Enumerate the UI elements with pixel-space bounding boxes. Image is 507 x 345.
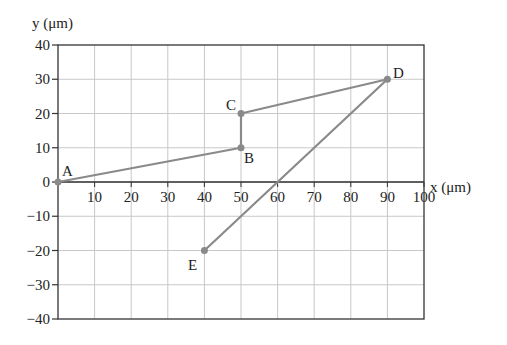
x-tick-label: 60 bbox=[270, 189, 285, 205]
x-tick-label: 50 bbox=[234, 189, 249, 205]
path-line bbox=[58, 79, 387, 250]
y-tick-label: 0 bbox=[43, 174, 51, 190]
point-label-e: E bbox=[188, 257, 197, 273]
data-path bbox=[58, 79, 387, 250]
y-tick-label: 30 bbox=[35, 71, 50, 87]
point-d-marker bbox=[384, 76, 391, 83]
point-a-marker bbox=[55, 179, 62, 186]
data-points bbox=[55, 76, 391, 254]
y-tick-label: 40 bbox=[35, 37, 50, 53]
y-tick-label: −40 bbox=[27, 311, 50, 327]
x-tick-label: 80 bbox=[343, 189, 358, 205]
axes bbox=[52, 45, 424, 319]
y-tick-label: −10 bbox=[27, 208, 50, 224]
x-tick-label: 90 bbox=[380, 189, 395, 205]
y-tick-label: 20 bbox=[35, 106, 50, 122]
x-tick-label: 70 bbox=[307, 189, 322, 205]
point-label-b: B bbox=[244, 150, 254, 166]
x-tick-label: 40 bbox=[197, 189, 212, 205]
x-tick-label: 20 bbox=[124, 189, 139, 205]
point-label-a: A bbox=[62, 163, 73, 179]
y-tick-label: −20 bbox=[27, 243, 50, 259]
x-axis-label: x (μm) bbox=[430, 179, 471, 196]
x-tick-label: 30 bbox=[160, 189, 175, 205]
y-tick-label: −30 bbox=[27, 277, 50, 293]
point-label-d: D bbox=[393, 65, 404, 81]
y-axis-label: y (μm) bbox=[32, 15, 73, 32]
point-label-c: C bbox=[226, 97, 236, 113]
y-tick-label: 10 bbox=[35, 140, 50, 156]
chart: 403020100−10−20−30−401020304050607080901… bbox=[0, 0, 507, 345]
point-c-marker bbox=[238, 110, 245, 117]
point-e-marker bbox=[201, 247, 208, 254]
x-tick-label: 10 bbox=[87, 189, 102, 205]
